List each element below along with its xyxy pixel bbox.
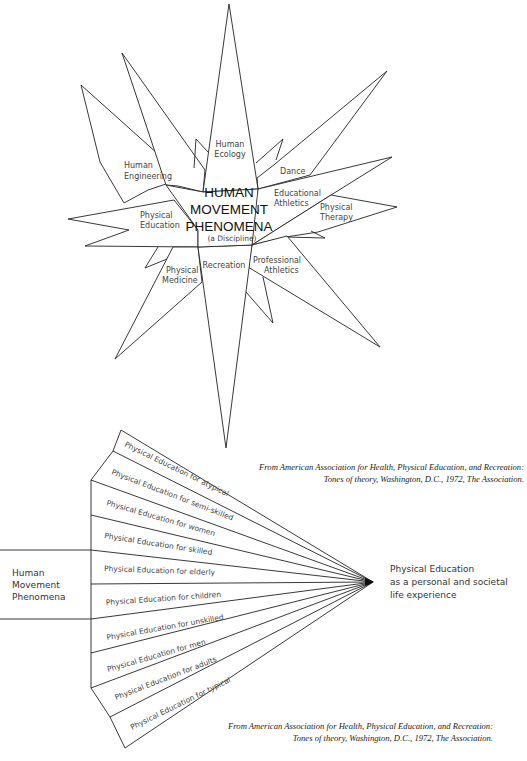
center-title-line-2: MOVEMENT	[190, 202, 268, 217]
citation-bottom-line-2: Tones of theory, Washington, D.C., 1972,…	[193, 732, 493, 744]
label-educational-athletics-1: Educational	[274, 189, 321, 198]
citation-bottom: From American Association for Health, Ph…	[193, 720, 493, 744]
label-human-ecology-2: Ecology	[214, 150, 246, 159]
label-physical-education-2: Education	[140, 221, 180, 230]
fan-segment-semi-skilled: Physical Education for semi-skilled	[110, 467, 235, 522]
label-professional-athletics-1: Professional	[253, 256, 301, 265]
spike-human-ecology	[203, 4, 258, 192]
notch-pro-athletics	[246, 277, 273, 323]
spike-physical-medicine	[115, 247, 202, 359]
citation-top: From American Association for Health, Ph…	[224, 461, 524, 485]
label-physical-therapy-2: Therapy	[319, 213, 353, 222]
fan-segment-elderly: Physical Education for elderly	[104, 564, 216, 577]
spike-recreation	[198, 245, 252, 448]
citation-top-line-1: From American Association for Health, Ph…	[224, 461, 524, 473]
source-label-line-3: Phenomena	[12, 592, 65, 602]
fan-segment-unskilled: Physical Education for unskilled	[106, 612, 225, 642]
citation-bottom-line-1: From American Association for Health, Ph…	[193, 720, 493, 732]
label-human-engineering-1: Human	[124, 161, 153, 170]
label-physical-education-1: Physical	[140, 211, 173, 220]
notch-ecology-right	[256, 139, 283, 163]
label-professional-athletics-2: Athletics	[264, 266, 299, 275]
label-physical-medicine-2: Medicine	[162, 276, 198, 285]
label-human-ecology-1: Human	[216, 140, 245, 149]
label-educational-athletics-2: Athletics	[274, 199, 309, 208]
target-label-line-1: Physical Education	[390, 564, 474, 574]
fan-divider-5	[91, 582, 373, 584]
human-movement-star: HUMAN MOVEMENT PHENOMENA (a Discipline) …	[68, 4, 397, 448]
label-physical-medicine-1: Physical	[166, 266, 199, 275]
label-recreation: Recreation	[203, 261, 246, 270]
source-label-line-2: Movement	[12, 580, 60, 590]
fan-segment-atypical: Physical Education for atypical	[123, 440, 230, 498]
target-label-line-3: life experience	[390, 590, 457, 600]
label-physical-therapy-1: Physical	[320, 203, 353, 212]
target-label-line-2: as a personal and societal	[390, 577, 508, 587]
citation-top-line-2: Tones of theory, Washington, D.C., 1972,…	[224, 473, 524, 485]
label-human-engineering-2: Engineering	[124, 172, 172, 181]
center-subtitle: (a Discipline)	[207, 234, 256, 243]
source-label-line-1: Human	[12, 568, 44, 578]
center-title-line-3: PHENOMENA	[185, 219, 272, 234]
label-dance: Dance	[280, 167, 306, 176]
center-title-line-1: HUMAN	[204, 185, 254, 200]
spike-professional-athletics	[248, 236, 380, 347]
diagram-canvas: HUMAN MOVEMENT PHENOMENA (a Discipline) …	[0, 0, 527, 761]
fan-divider-7	[91, 582, 373, 653]
